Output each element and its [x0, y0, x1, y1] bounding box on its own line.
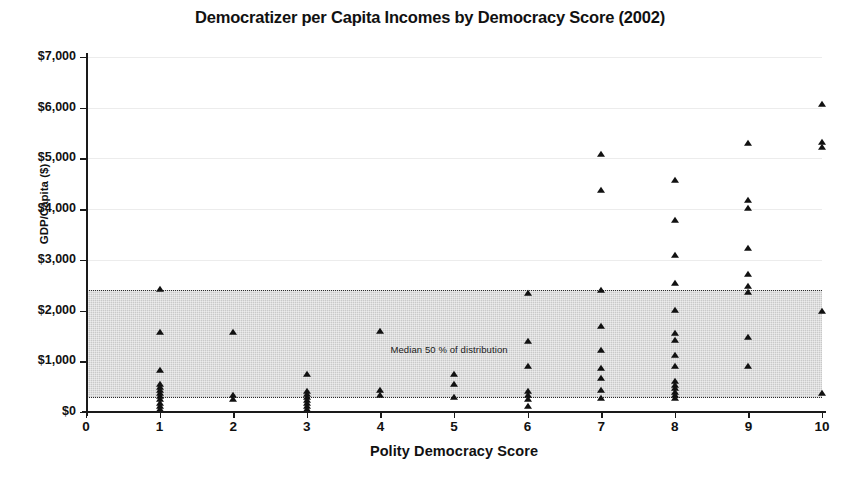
data-point [671, 252, 679, 258]
data-point [671, 330, 679, 336]
data-point [818, 100, 826, 106]
x-axis-tick [454, 412, 455, 418]
gridline [86, 260, 822, 261]
data-point [744, 197, 752, 203]
data-point [671, 280, 679, 286]
x-axis-tick [380, 412, 381, 418]
x-axis-tick-label: 2 [213, 419, 253, 434]
data-point [597, 395, 605, 401]
x-axis-tick-label: 3 [287, 419, 327, 434]
median-band-top-edge [86, 290, 822, 291]
data-point [818, 390, 826, 396]
data-point [597, 346, 605, 352]
data-point [744, 289, 752, 295]
gridline [86, 57, 822, 58]
data-point [744, 334, 752, 340]
y-axis-line [86, 53, 88, 416]
data-point [597, 151, 605, 157]
y-axis-tick [80, 158, 86, 159]
data-point [671, 217, 679, 223]
x-axis-tick-label: 5 [434, 419, 474, 434]
x-axis-tick-label: 1 [140, 419, 180, 434]
data-point [229, 329, 237, 335]
data-point [376, 392, 384, 398]
y-axis-tick [80, 311, 86, 312]
x-axis-tick [748, 412, 749, 418]
data-point [597, 323, 605, 329]
data-point [744, 245, 752, 251]
y-axis-title: GDP/Capita ($) [38, 124, 50, 284]
data-point [597, 287, 605, 293]
x-axis-tick-label: 0 [66, 419, 106, 434]
data-point [818, 307, 826, 313]
data-point [671, 351, 679, 357]
y-axis-tick [80, 361, 86, 362]
data-point [156, 286, 164, 292]
data-point [597, 187, 605, 193]
data-point [671, 363, 679, 369]
data-point [744, 270, 752, 276]
y-axis-tick-label: $6,000 [12, 100, 76, 114]
x-axis-tick-label: 7 [581, 419, 621, 434]
data-point [156, 367, 164, 373]
y-axis-tick [80, 108, 86, 109]
data-point [671, 177, 679, 183]
x-axis-tick [822, 412, 823, 418]
x-axis-tick-label: 10 [802, 419, 842, 434]
y-axis-tick-label: $1,000 [12, 353, 76, 367]
y-axis-tick [80, 260, 86, 261]
x-axis-tick [307, 412, 308, 418]
x-axis-tick-label: 6 [508, 419, 548, 434]
y-axis-tick [80, 209, 86, 210]
data-point [524, 338, 532, 344]
gridline [86, 209, 822, 210]
data-point [671, 337, 679, 343]
x-axis-tick [160, 412, 161, 418]
data-point [671, 395, 679, 401]
y-axis-tick [80, 57, 86, 58]
data-point [597, 365, 605, 371]
median-band-label: Median 50 % of distribution [390, 344, 507, 355]
gridline [86, 158, 822, 159]
data-point [524, 290, 532, 296]
x-axis-tick [675, 412, 676, 418]
data-point [303, 371, 311, 377]
data-point [744, 204, 752, 210]
gridline [86, 108, 822, 109]
data-point [524, 396, 532, 402]
x-axis-title: Polity Democracy Score [86, 443, 822, 459]
data-point [818, 144, 826, 150]
chart-title: Democratizer per Capita Incomes by Democ… [0, 8, 860, 27]
data-point [597, 387, 605, 393]
data-point [156, 329, 164, 335]
data-point [671, 306, 679, 312]
x-axis-tick [233, 412, 234, 418]
data-point [524, 363, 532, 369]
x-axis-tick-label: 9 [728, 419, 768, 434]
x-axis-tick [86, 412, 87, 418]
data-point [450, 380, 458, 386]
data-point [744, 363, 752, 369]
y-axis-tick-label: $7,000 [12, 49, 76, 63]
x-axis-tick [528, 412, 529, 418]
data-point [229, 396, 237, 402]
x-axis-tick-label: 4 [360, 419, 400, 434]
x-axis-tick [601, 412, 602, 418]
plot-area: Median 50 % of distribution [86, 57, 822, 412]
data-point [450, 394, 458, 400]
data-point [524, 403, 532, 409]
data-point [744, 140, 752, 146]
y-axis-tick-label: $0 [12, 404, 76, 418]
data-point [597, 374, 605, 380]
chart-container: Democratizer per Capita Incomes by Democ… [0, 0, 860, 483]
data-point [450, 371, 458, 377]
y-axis-tick-label: $2,000 [12, 303, 76, 317]
x-axis-tick-label: 8 [655, 419, 695, 434]
data-point [376, 328, 384, 334]
